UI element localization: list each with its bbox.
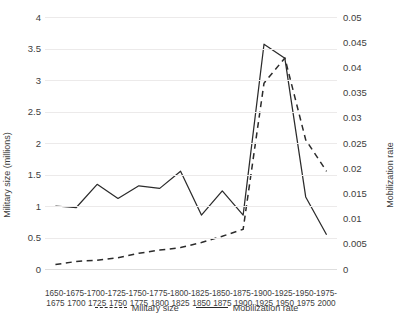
left-y-tick-label: 1 bbox=[15, 201, 41, 212]
right-y-tick-label: 0.015 bbox=[343, 188, 377, 199]
right-y-tick-label: 0.01 bbox=[343, 213, 377, 224]
x-tick-line1: 1850- bbox=[212, 289, 233, 298]
gridline bbox=[45, 80, 337, 81]
x-tick-line1: 1950- bbox=[295, 289, 316, 298]
x-tick-line1: 1825- bbox=[191, 289, 212, 298]
left-y-tick-label: 0 bbox=[15, 264, 41, 275]
gridline bbox=[45, 238, 337, 239]
right-y-tick-label: 0 bbox=[343, 264, 377, 275]
x-tick-line1: 1650- bbox=[45, 289, 66, 298]
right-y-tick-label: 0.035 bbox=[343, 87, 377, 98]
right-y-axis-title: Mobilization rate bbox=[385, 105, 395, 245]
right-y-tick-label: 0.05 bbox=[343, 12, 377, 23]
left-y-axis-title: Military size (millions) bbox=[2, 105, 12, 245]
left-y-tick-label: 2.5 bbox=[15, 106, 41, 117]
left-y-tick-label: 1.5 bbox=[15, 169, 41, 180]
x-tick-line1: 1725- bbox=[108, 289, 129, 298]
legend-item-mobilization-rate[interactable]: Mobilization rate bbox=[196, 303, 299, 313]
x-tick-line1: 1925- bbox=[274, 289, 295, 298]
gridline bbox=[45, 269, 337, 270]
gridline bbox=[45, 112, 337, 113]
gridline bbox=[45, 175, 337, 176]
gridline bbox=[45, 206, 337, 207]
x-tick-line1: 1750- bbox=[128, 289, 149, 298]
legend-item-military-size[interactable]: Military size bbox=[95, 303, 179, 313]
right-y-tick-label: 0.02 bbox=[343, 163, 377, 174]
right-y-tick-label: 0.025 bbox=[343, 138, 377, 149]
legend-item-label: Military size bbox=[132, 303, 179, 313]
x-tick-line1: 1675- bbox=[66, 289, 87, 298]
gridline bbox=[45, 143, 337, 144]
legend-item-label: Mobilization rate bbox=[233, 303, 299, 313]
left-y-tick-label: 2 bbox=[15, 138, 41, 149]
left-y-tick-label: 3.5 bbox=[15, 43, 41, 54]
left-y-tick-label: 3 bbox=[15, 75, 41, 86]
plot-area: 1650-16751675-17001700-17251725-17501750… bbox=[45, 17, 337, 269]
x-tick-line1: 1800- bbox=[170, 289, 191, 298]
gridline bbox=[45, 17, 337, 18]
left-y-tick-label: 4 bbox=[15, 12, 41, 23]
legend-line-swatch-icon bbox=[196, 304, 228, 312]
x-tick-line1: 1700- bbox=[87, 289, 108, 298]
right-y-tick-label: 0.045 bbox=[343, 37, 377, 48]
legend-line-swatch-icon bbox=[95, 304, 127, 312]
right-y-tick-label: 0.03 bbox=[343, 112, 377, 123]
x-tick-line1: 1775- bbox=[149, 289, 170, 298]
x-tick-line1: 1900- bbox=[254, 289, 275, 298]
gridline bbox=[45, 49, 337, 50]
right-y-tick-label: 0.04 bbox=[343, 62, 377, 73]
right-y-tick-label: 0.005 bbox=[343, 238, 377, 249]
line-military-size bbox=[55, 58, 326, 265]
x-tick-line1: 1875- bbox=[233, 289, 254, 298]
x-tick-line1: 1975- bbox=[316, 289, 337, 298]
left-y-tick-label: 0.5 bbox=[15, 232, 41, 243]
chart-legend: Military sizeMobilization rate bbox=[0, 303, 393, 313]
